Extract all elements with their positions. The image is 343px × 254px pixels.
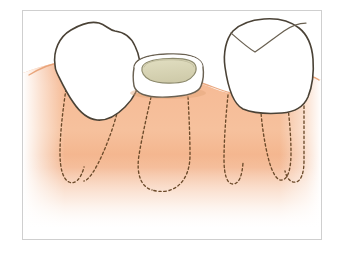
right-tooth-crown-shape (224, 19, 313, 114)
center-crown-restoration (130, 54, 206, 99)
illustration-root: Dental illustration: missing tooth site … (0, 0, 343, 254)
right-tooth (224, 19, 313, 114)
figure-frame (22, 10, 322, 240)
dental-scene (23, 11, 321, 239)
